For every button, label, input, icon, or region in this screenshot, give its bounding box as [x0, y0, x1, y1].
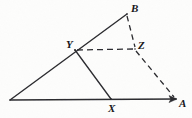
vertex-label-z: Z	[138, 40, 145, 51]
vertex-X-dot	[110, 98, 112, 100]
segment-dash-YZ	[77, 49, 133, 50]
geometry-canvas	[0, 0, 192, 118]
segment-side-OB	[10, 14, 127, 100]
geometry-figure: B Y Z X A	[0, 0, 192, 118]
segment-base-OA	[10, 99, 176, 100]
vertex-Y-dot	[74, 49, 76, 51]
vertex-label-y: Y	[66, 39, 73, 50]
segment-dash-ZA	[136, 51, 174, 97]
vertex-label-a: A	[179, 98, 186, 109]
vertex-Z-dot	[134, 48, 136, 50]
segment-dash-BZ	[127, 16, 135, 47]
segment-cevian-YX	[75, 50, 111, 99]
vertex-label-b: B	[131, 3, 138, 14]
vertex-label-x: X	[108, 103, 115, 114]
vertex-B-dot	[126, 13, 128, 15]
